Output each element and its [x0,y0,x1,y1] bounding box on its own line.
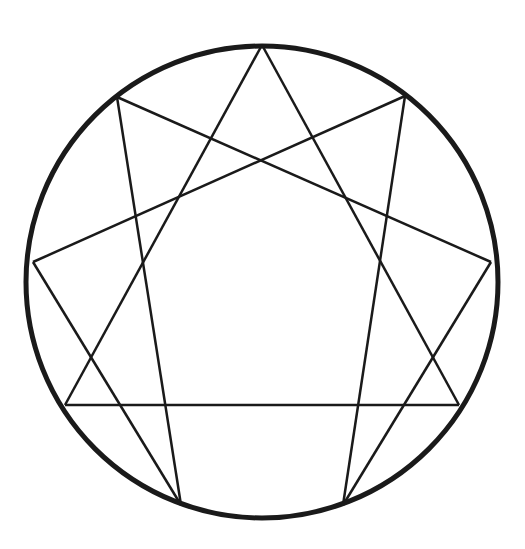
enneagram-circle [26,46,498,518]
edge-p9-p6 [65,45,262,405]
enneagram-figure [0,0,525,549]
edge-p1-p4 [343,96,405,505]
edge-p8-p5 [117,97,181,505]
edge-p9-p3 [262,45,459,405]
enneagram-lines [33,45,491,505]
edge-p5-p7 [33,262,181,505]
edge-p4-p2 [343,262,491,505]
